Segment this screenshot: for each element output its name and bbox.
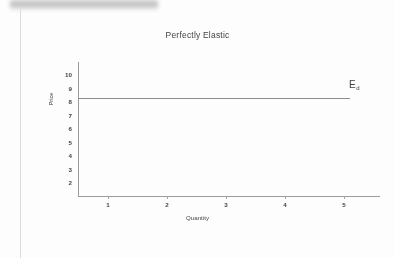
perfectly-elastic-demand-line: [78, 98, 350, 99]
y-axis-line: [78, 62, 79, 197]
chart-title: Perfectly Elastic: [0, 30, 395, 40]
x-tick-label: 4: [277, 201, 293, 208]
y-tick-label: 6: [57, 125, 72, 132]
x-tick-mark: [167, 196, 168, 199]
x-axis-title: Quantity: [0, 214, 395, 221]
y-tick-label: 7: [57, 112, 72, 119]
x-tick-label: 3: [218, 201, 234, 208]
demand-curve-label-letter: E: [349, 79, 356, 90]
scanned-figure-page: Perfectly Elastic Ed Price 10 9 8 7 6 5 …: [0, 0, 395, 258]
y-tick-label: 5: [57, 139, 72, 146]
y-tick-label: 3: [57, 166, 72, 173]
y-tick-label: 8: [57, 98, 72, 105]
x-axis-line: [78, 196, 380, 197]
x-tick-mark: [285, 196, 286, 199]
x-tick-mark: [226, 196, 227, 199]
x-tick-label: 2: [159, 201, 175, 208]
demand-curve-label: Ed: [349, 79, 360, 91]
y-tick-label: 10: [57, 71, 72, 78]
y-tick-label: 4: [57, 152, 72, 159]
x-tick-label: 5: [336, 201, 352, 208]
y-tick-label: 9: [57, 85, 72, 92]
x-tick-mark: [108, 196, 109, 199]
y-axis-title: Price: [48, 84, 54, 114]
y-tick-label: 2: [57, 179, 72, 186]
x-tick-label: 1: [100, 201, 116, 208]
demand-curve-label-subscript: d: [356, 85, 359, 91]
x-tick-mark: [344, 196, 345, 199]
perfectly-elastic-chart: Perfectly Elastic Ed Price 10 9 8 7 6 5 …: [0, 0, 395, 258]
